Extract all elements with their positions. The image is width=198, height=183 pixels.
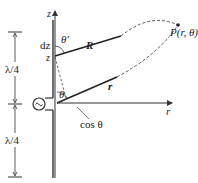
dz-label: dz	[40, 40, 50, 51]
theta-label: θ	[59, 89, 64, 100]
dipole-antenna-diagram: z dz z θ′ R θ r P(r, θ) r cos θ λ/4 λ/4	[0, 0, 198, 183]
point-P-label: P(r, θ)	[170, 27, 198, 38]
R-vector-label: R	[86, 40, 93, 51]
r-vector-label: r	[108, 81, 112, 92]
lambda-quarter-lower-label: λ/4	[5, 135, 19, 146]
r-dashed-extension	[117, 25, 178, 77]
z-axis-label: z	[47, 9, 51, 19]
r-axis-label: r	[166, 106, 170, 117]
theta-prime-arc	[55, 46, 64, 53]
z-point-label: z	[46, 53, 50, 63]
lambda-quarter-upper-label: λ/4	[5, 64, 19, 75]
theta-prime-label: θ′	[61, 34, 69, 45]
cos-theta-label: cos θ	[80, 119, 103, 130]
diagram-graphics	[0, 0, 198, 183]
